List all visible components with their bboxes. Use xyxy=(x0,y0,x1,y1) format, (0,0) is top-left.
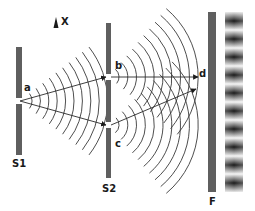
wavefronts-from-a xyxy=(30,47,108,155)
label-b: b xyxy=(115,60,122,71)
ray-a-to-c xyxy=(20,101,106,125)
wavefronts-from-c xyxy=(115,62,198,193)
barrier-s2 xyxy=(106,23,111,178)
label-d: d xyxy=(199,68,206,79)
x-axis-indicator: X xyxy=(54,16,70,28)
wavefronts-from-b xyxy=(115,9,198,135)
up-arrow-icon xyxy=(54,17,59,28)
label-s1: S1 xyxy=(12,158,26,169)
screen-f xyxy=(208,12,216,192)
interference-fringes xyxy=(225,12,243,192)
x-axis-label: X xyxy=(61,16,69,27)
label-f: F xyxy=(209,196,216,207)
label-s2: S2 xyxy=(102,183,116,194)
label-c: c xyxy=(115,138,121,149)
double-slit-diagram: X a b c d S1 S2 F xyxy=(0,0,255,211)
ray-a-to-b xyxy=(20,77,106,101)
label-a: a xyxy=(24,82,31,93)
